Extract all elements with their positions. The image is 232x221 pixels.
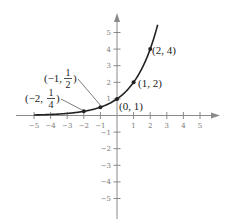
svg-text:2: 2	[66, 79, 71, 90]
svg-text:−2: −2	[101, 145, 111, 153]
exponential-graph: −5−4−3−2−112345−5−4−3−2−112345 (2, 4) (1…	[0, 0, 232, 221]
svg-text:−4: −4	[101, 178, 112, 186]
svg-text:1: 1	[49, 87, 54, 98]
svg-text:5: 5	[198, 122, 202, 130]
svg-text:−5: −5	[29, 122, 39, 130]
svg-text:): )	[56, 92, 60, 105]
svg-text:2: 2	[107, 79, 111, 87]
svg-text:2: 2	[148, 122, 152, 130]
svg-text:−3: −3	[101, 162, 111, 170]
svg-text:): )	[73, 72, 77, 85]
axes	[16, 13, 220, 219]
svg-text:3: 3	[107, 62, 111, 70]
svg-text:1: 1	[66, 67, 71, 78]
svg-text:−5: −5	[101, 195, 111, 203]
svg-text:3: 3	[165, 122, 169, 130]
label-point-0-1: (0, 1)	[119, 100, 143, 113]
svg-text:1: 1	[131, 122, 135, 130]
svg-text:−1: −1	[101, 129, 111, 137]
label-point-m2-quarter: (−2, 1 4 )	[25, 87, 60, 110]
svg-text:(−1,: (−1,	[44, 72, 62, 85]
svg-text:−2: −2	[79, 122, 89, 130]
svg-text:4: 4	[181, 122, 186, 130]
label-point-2-4: (2, 4)	[152, 44, 176, 57]
svg-text:4: 4	[107, 46, 112, 54]
svg-text:5: 5	[107, 29, 111, 37]
label-point-1-2: (1, 2)	[138, 77, 162, 90]
svg-text:−3: −3	[62, 122, 72, 130]
svg-text:(−2,: (−2,	[25, 92, 43, 105]
svg-text:−4: −4	[45, 122, 56, 130]
svg-text:4: 4	[49, 99, 54, 110]
